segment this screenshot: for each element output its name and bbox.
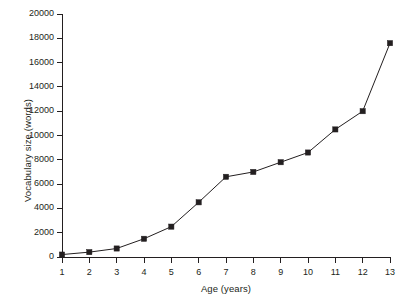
data-point [114, 246, 119, 251]
data-point [387, 41, 392, 46]
x-axis-title: Age (years) [62, 283, 390, 294]
data-point [305, 150, 310, 155]
series-plot [0, 0, 403, 301]
vocabulary-growth-chart: Vocabulary size (words) 0200040006000800… [0, 0, 403, 301]
series-markers [59, 41, 392, 258]
data-point [333, 127, 338, 132]
series-line [62, 43, 390, 254]
data-point [251, 169, 256, 174]
data-point [223, 174, 228, 179]
data-point [141, 236, 146, 241]
data-point [196, 200, 201, 205]
data-point [360, 109, 365, 114]
data-point [278, 160, 283, 165]
data-point [59, 252, 64, 257]
data-point [169, 224, 174, 229]
data-point [87, 250, 92, 255]
